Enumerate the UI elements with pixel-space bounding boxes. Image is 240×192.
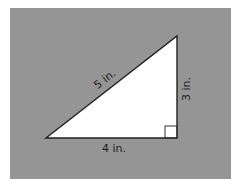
right-triangle-diagram: 5 in. 3 in. 4 in. — [0, 0, 240, 192]
horizontal-leg-label: 4 in. — [102, 142, 126, 155]
vertical-leg-label: 3 in. — [180, 77, 193, 101]
triangle-shape — [46, 36, 177, 138]
